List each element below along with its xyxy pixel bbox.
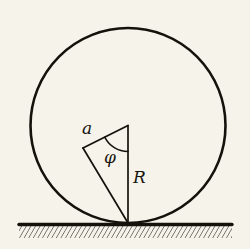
physics-figure-ball-on-ground: a φ R — [0, 0, 250, 249]
label-angle-phi: φ — [104, 147, 116, 167]
label-chord-a: a — [82, 118, 92, 138]
ground-hatching — [19, 226, 232, 238]
figure-canvas: a φ R — [0, 0, 250, 249]
label-radius-R: R — [132, 167, 146, 187]
